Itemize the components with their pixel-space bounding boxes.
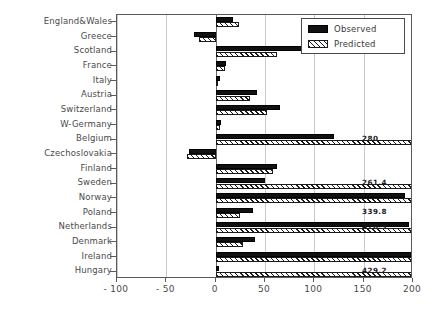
x-axis-label: 150: [340, 285, 386, 294]
bar-predicted: [216, 125, 220, 130]
bar-predicted: [216, 81, 218, 86]
y-axis-label: France: [83, 61, 112, 70]
y-axis-label: W-Germany: [60, 120, 112, 129]
y-axis-label: Czechoslovakia: [44, 149, 112, 158]
bar-observed: [216, 90, 257, 95]
bar-observed: [216, 76, 220, 81]
x-axis-label: 200: [389, 285, 432, 294]
bar-observed: [216, 237, 255, 242]
y-axis-label: Denmark: [72, 237, 112, 246]
x-axis-label: 50: [241, 285, 287, 294]
bar-predicted: [187, 154, 216, 159]
bar-row: [117, 88, 411, 103]
bar-predicted: [216, 96, 251, 101]
bar-chart: England&WalesGreeceScotlandFranceItalyAu…: [0, 0, 432, 309]
overflow-value-label: 476.9: [362, 223, 387, 230]
y-axis-label: Poland: [83, 208, 112, 217]
bar-observed: [194, 32, 216, 37]
bar-observed: [216, 105, 280, 110]
bar-observed: [216, 134, 334, 139]
overflow-value-label: 261.4: [362, 179, 387, 186]
y-axis-label: England&Wales: [44, 17, 112, 26]
bar-row: [117, 147, 411, 162]
bar-predicted: [216, 242, 244, 247]
bar-observed: [216, 208, 253, 213]
y-axis-label: Finland: [81, 164, 112, 173]
bar-row: [117, 59, 411, 74]
x-axis-tick: [116, 278, 117, 282]
bar-row: [117, 191, 411, 206]
x-axis-label: 100: [290, 285, 336, 294]
y-axis-label: Austria: [81, 90, 112, 99]
bar-observed: [216, 266, 219, 271]
bar-observed: [216, 17, 234, 22]
x-axis-label: - 100: [93, 285, 139, 294]
legend-label-predicted: Predicted: [334, 39, 376, 50]
x-axis-label: - 50: [142, 285, 188, 294]
y-axis-label: Ireland: [82, 252, 112, 261]
bar-row: [117, 235, 411, 250]
bar-row: [117, 250, 411, 265]
bar-observed: [216, 61, 226, 66]
bar-predicted: [216, 52, 277, 57]
legend: Observed Predicted: [301, 18, 405, 54]
y-axis-label: Belgium: [76, 134, 112, 143]
bar-observed: [189, 149, 216, 154]
bar-observed: [216, 178, 265, 183]
bar-observed: [216, 120, 221, 125]
bar-row: [117, 74, 411, 89]
legend-label-observed: Observed: [334, 24, 377, 35]
bar-predicted: [216, 257, 412, 262]
bar-predicted: [216, 213, 241, 218]
y-axis-label: Greece: [81, 32, 112, 41]
y-axis-label: Norway: [79, 193, 112, 202]
bar-predicted: [216, 140, 412, 145]
overflow-value-label: 429.2: [362, 267, 387, 274]
overflow-value-label: 280: [362, 135, 378, 142]
y-axis-label: Sweden: [78, 178, 113, 187]
bar-observed: [216, 252, 412, 257]
bar-predicted: [199, 37, 216, 42]
bar-observed: [216, 46, 310, 51]
x-axis-label: 0: [192, 285, 238, 294]
y-axis-label: Netherlands: [59, 222, 112, 231]
legend-swatch-observed-icon: [308, 25, 328, 33]
x-axis-tick: [313, 278, 314, 282]
legend-swatch-predicted-icon: [308, 40, 328, 48]
y-axis-label: Hungary: [75, 266, 112, 275]
x-axis-tick: [165, 278, 166, 282]
bar-predicted: [216, 66, 225, 71]
bar-predicted: [216, 198, 412, 203]
bar-observed: [216, 193, 405, 198]
bar-row: [117, 103, 411, 118]
bar-observed: [216, 164, 277, 169]
bar-row: [117, 118, 411, 133]
x-axis-tick: [363, 278, 364, 282]
y-axis-label: Switzerland: [61, 105, 112, 114]
x-axis-tick: [412, 278, 413, 282]
bar-predicted: [216, 169, 273, 174]
overflow-value-label: 339.8: [362, 208, 387, 215]
bar-predicted: [216, 22, 240, 27]
bar-predicted: [216, 110, 267, 115]
x-axis-tick: [215, 278, 216, 282]
y-axis-label: Scotland: [74, 46, 112, 55]
x-axis-tick: [264, 278, 265, 282]
bar-row: [117, 162, 411, 177]
